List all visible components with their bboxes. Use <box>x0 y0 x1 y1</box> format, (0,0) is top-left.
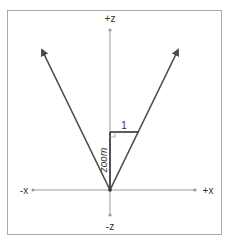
origin-point <box>108 188 112 192</box>
unit-label: 1 <box>121 120 127 131</box>
zoom-diagram: +z -z -x +x 1 zoom <box>0 0 229 241</box>
pos-x-label: +x <box>203 185 214 196</box>
neg-z-label: -z <box>106 221 114 232</box>
diagram-frame <box>8 11 222 235</box>
right-frustum-ray <box>110 50 178 190</box>
pos-z-label: +z <box>105 13 116 24</box>
neg-x-label: -x <box>20 185 28 196</box>
zoom-label: zoom <box>98 148 109 173</box>
